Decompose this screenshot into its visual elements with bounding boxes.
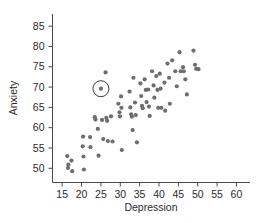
data-point: [88, 135, 92, 139]
x-tick-label: 35: [134, 188, 146, 200]
data-point: [183, 77, 187, 81]
data-point: [185, 92, 189, 96]
data-point: [158, 72, 162, 76]
data-point: [182, 69, 186, 73]
data-point: [159, 106, 163, 110]
x-tick-label: 30: [114, 188, 126, 200]
data-point: [105, 119, 109, 123]
data-point: [175, 84, 179, 88]
scatter-chart: 5055606570758085 15202530354045505560 De…: [0, 0, 265, 223]
x-tick-label: 55: [211, 188, 223, 200]
x-tick-label: 50: [192, 188, 204, 200]
x-tick-label: 45: [173, 188, 185, 200]
data-point: [109, 114, 113, 118]
data-point: [131, 128, 135, 132]
data-point: [147, 104, 151, 108]
data-point: [168, 102, 172, 106]
data-point: [119, 106, 123, 110]
data-point: [81, 135, 85, 139]
data-point: [82, 167, 86, 171]
data-point: [162, 81, 166, 85]
data-point: [88, 145, 92, 149]
data-point: [134, 113, 138, 117]
y-tick-label: 65: [33, 101, 45, 113]
y-axis-tick-labels: 5055606570758085: [33, 20, 45, 174]
data-point: [150, 69, 154, 73]
data-point: [170, 58, 174, 62]
x-axis-group: 15202530354045505560: [53, 183, 251, 200]
data-point: [148, 114, 152, 118]
y-axis-ticks: [49, 26, 53, 168]
y-tick-label: 80: [33, 40, 45, 52]
data-point: [120, 148, 124, 152]
y-tick-label: 70: [33, 81, 45, 93]
data-point: [69, 158, 73, 162]
data-point: [151, 83, 155, 87]
data-point: [96, 154, 100, 158]
data-point: [135, 140, 139, 144]
y-tick-label: 85: [33, 20, 45, 32]
data-point: [152, 96, 156, 100]
data-point: [116, 102, 120, 106]
y-axis-group: 5055606570758085: [33, 14, 53, 183]
y-tick-label: 75: [33, 60, 45, 72]
data-point: [99, 87, 103, 91]
data-point: [193, 63, 197, 67]
data-point: [167, 76, 171, 80]
data-point: [181, 65, 185, 69]
chart-canvas: 5055606570758085 15202530354045505560 De…: [0, 0, 265, 223]
data-point: [191, 48, 195, 52]
data-point: [177, 50, 181, 54]
data-point: [96, 127, 100, 131]
data-point: [165, 61, 169, 65]
data-point: [93, 117, 97, 121]
y-tick-label: 50: [33, 162, 45, 174]
x-tick-label: 60: [231, 188, 243, 200]
data-point: [145, 100, 149, 104]
x-axis-ticks: [62, 183, 236, 187]
data-point: [138, 81, 142, 85]
x-tick-label: 20: [76, 188, 88, 200]
data-points-layer: [65, 48, 200, 173]
data-point: [131, 76, 135, 80]
data-point: [106, 139, 110, 143]
data-point: [133, 100, 137, 104]
data-point: [173, 69, 177, 73]
data-point: [139, 94, 143, 98]
data-point: [127, 89, 131, 93]
data-point: [66, 166, 70, 170]
data-point: [130, 115, 134, 119]
data-point: [65, 154, 69, 158]
x-tick-label: 25: [95, 188, 107, 200]
data-point: [101, 137, 105, 141]
data-point: [141, 106, 145, 110]
x-tick-label: 15: [56, 188, 68, 200]
y-tick-label: 60: [33, 121, 45, 133]
data-point: [110, 139, 114, 143]
data-point: [81, 144, 85, 148]
data-point: [158, 87, 162, 91]
data-point: [100, 118, 104, 122]
x-tick-label: 40: [153, 188, 165, 200]
data-point: [163, 109, 167, 113]
y-tick-label: 55: [33, 142, 45, 154]
data-point: [118, 114, 122, 118]
data-point: [103, 70, 107, 74]
data-point: [70, 169, 74, 173]
data-point: [128, 105, 132, 109]
data-point: [154, 74, 158, 78]
x-axis-tick-labels: 15202530354045505560: [56, 188, 242, 200]
x-axis-title: Depression: [124, 201, 177, 213]
data-point: [143, 77, 147, 81]
data-point: [119, 94, 123, 98]
data-point: [146, 87, 150, 91]
data-point: [81, 154, 85, 158]
data-point: [117, 110, 121, 114]
y-axis-title: Anxiety: [7, 80, 19, 115]
data-point: [196, 67, 200, 71]
